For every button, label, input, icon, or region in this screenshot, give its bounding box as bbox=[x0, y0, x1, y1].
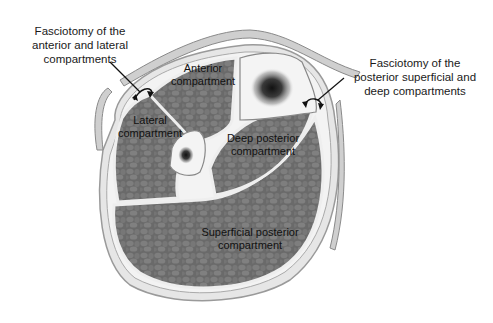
lateral-label: Lateral compartment bbox=[114, 114, 186, 140]
callout-right-line3: deep compartments bbox=[340, 84, 490, 98]
callout-right-line2: posterior superficial and bbox=[340, 70, 490, 84]
superficial-posterior-line2: compartment bbox=[190, 239, 310, 252]
deep-posterior-line2: compartment bbox=[220, 145, 306, 158]
callout-right-label: Fasciotomy of the posterior superficial … bbox=[340, 56, 490, 98]
superficial-posterior-label: Superficial posterior compartment bbox=[190, 226, 310, 252]
lateral-line1: Lateral bbox=[114, 114, 186, 127]
callout-left-label: Fasciotomy of the anterior and lateral c… bbox=[20, 24, 140, 66]
callout-right-line1: Fasciotomy of the bbox=[340, 56, 490, 70]
deep-posterior-line1: Deep posterior bbox=[220, 132, 306, 145]
callout-left-line1: Fasciotomy of the bbox=[20, 24, 140, 38]
callout-left-line2: anterior and lateral bbox=[20, 38, 140, 52]
deep-posterior-label: Deep posterior compartment bbox=[220, 132, 306, 158]
fibula-marrow bbox=[178, 146, 194, 164]
tibia-marrow bbox=[250, 68, 294, 108]
lateral-line2: compartment bbox=[114, 127, 186, 140]
anterior-line2: compartment bbox=[168, 75, 238, 88]
anterior-label: Anterior compartment bbox=[168, 62, 238, 88]
anterior-line1: Anterior bbox=[168, 62, 238, 75]
superficial-posterior-line1: Superficial posterior bbox=[190, 226, 310, 239]
callout-left-line3: compartments bbox=[20, 52, 140, 66]
